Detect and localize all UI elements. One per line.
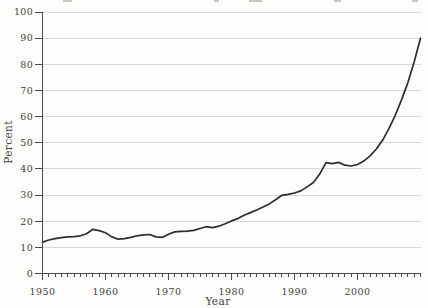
percent-series-line xyxy=(43,38,421,242)
y-tick-label: 70 xyxy=(20,85,33,96)
line-chart: 0102030405060708090100195019601970198019… xyxy=(0,0,428,308)
y-tick-label: 10 xyxy=(20,242,33,253)
y-axis-title: Percent xyxy=(2,107,14,177)
x-tick-label: 1990 xyxy=(281,286,307,297)
data-line xyxy=(43,38,421,242)
gridlines xyxy=(43,12,421,247)
figure: 0102030405060708090100195019601970198019… xyxy=(0,0,428,308)
x-tick-label: 2000 xyxy=(344,286,370,297)
y-tick-label: 90 xyxy=(20,32,33,43)
y-tick-label: 40 xyxy=(20,163,33,174)
x-axis-title: Year xyxy=(178,295,258,307)
tick-labels: 0102030405060708090100195019601970198019… xyxy=(14,6,371,297)
y-tick-label: 50 xyxy=(20,137,33,148)
y-tick-label: 60 xyxy=(20,111,33,122)
y-tick-label: 20 xyxy=(20,216,33,227)
y-tick-label: 100 xyxy=(14,6,33,17)
y-tick-label: 30 xyxy=(20,189,33,200)
y-tick-label: 0 xyxy=(27,268,33,279)
y-tick-label: 80 xyxy=(20,59,33,70)
x-tick-label: 1960 xyxy=(92,286,118,297)
x-tick-label: 1950 xyxy=(29,286,55,297)
tick-marks xyxy=(35,12,421,280)
